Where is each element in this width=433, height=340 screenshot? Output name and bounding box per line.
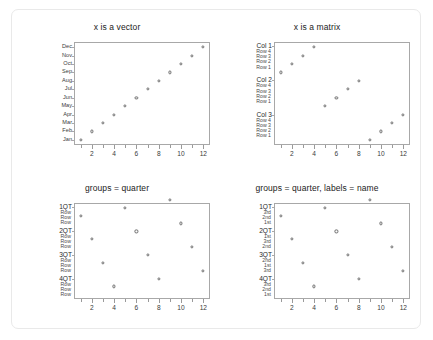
y-tick-mark (72, 140, 75, 141)
y-tick-mark (272, 255, 275, 256)
y-tick-mark (72, 123, 75, 124)
y-group-item: Row 1 (256, 65, 271, 70)
x-tick-mark (159, 299, 160, 303)
x-tick-label: 6 (335, 150, 339, 157)
plot-panel-groups-quarter-labels-name: groups = quarter, labels = name1QT3rd2nd… (218, 177, 416, 325)
y-tick-mark (72, 64, 75, 65)
plot-area-x-is-a-vector (74, 42, 210, 145)
x-tick-minor (103, 299, 104, 302)
y-axis-labels-groups-quarter: 1QTRowRowRow2QTRowRowRow3QTRowRowRow4QTR… (18, 177, 72, 325)
y-tick-mark (72, 131, 75, 132)
data-point (168, 198, 171, 201)
x-tick-label: 2 (290, 304, 294, 311)
y-tick-mark (72, 106, 75, 107)
x-tick-minor (303, 145, 304, 148)
x-tick-label: 6 (335, 304, 339, 311)
y-group-item: Row (61, 221, 71, 226)
x-tick-mark (114, 145, 115, 149)
x-tick-label: 8 (157, 150, 161, 157)
x-tick-minor (325, 299, 326, 302)
panel-grid: x is a vectorDecNovOctSepAugJulJunMayApr… (12, 10, 420, 328)
x-tick-minor (303, 299, 304, 302)
x-tick-minor (192, 299, 193, 302)
y-group-item: Row 1 (256, 99, 271, 104)
x-tick-mark (159, 145, 160, 149)
plot-area-groups-quarter (74, 203, 210, 299)
x-tick-minor (281, 299, 282, 302)
y-axis-labels-x-is-a-matrix: Col 1Row 4Row 3Row 2Row 1Col 2Row 4Row 3… (218, 16, 272, 171)
x-tick-minor (81, 145, 82, 148)
x-tick-mark (336, 145, 337, 149)
x-tick-mark (314, 299, 315, 303)
y-group-item: 3rd (264, 269, 272, 274)
x-tick-label: 4 (312, 150, 316, 157)
x-tick-mark (92, 145, 93, 149)
y-tick-mark (72, 98, 75, 99)
y-tick-mark (272, 231, 275, 232)
y-tick-mark (72, 231, 75, 232)
x-tick-minor (170, 145, 171, 148)
x-tick-label: 6 (135, 304, 139, 311)
plot-area-groups-quarter-labels-name (274, 203, 410, 299)
y-tick-label: Nov (62, 53, 72, 59)
data-point (368, 198, 371, 201)
y-tick-mark (272, 207, 275, 208)
x-tick-mark (136, 145, 137, 149)
y-group-item: Row (61, 269, 71, 274)
x-tick-label: 8 (157, 304, 161, 311)
y-group-item: 1st (264, 293, 271, 298)
x-tick-minor (392, 299, 393, 302)
x-tick-minor (103, 145, 104, 148)
plot-area-x-is-a-matrix (274, 42, 410, 145)
y-tick-label: Sep (62, 70, 72, 76)
y-tick-mark (72, 72, 75, 73)
x-tick-label: 2 (90, 304, 94, 311)
y-group-item: 2nd (262, 245, 271, 250)
x-tick-label: 4 (112, 304, 116, 311)
y-tick-mark (72, 207, 75, 208)
x-tick-mark (292, 145, 293, 149)
x-tick-minor (125, 299, 126, 302)
x-tick-minor (148, 299, 149, 302)
y-tick-label: Aug (62, 78, 72, 84)
x-tick-label: 12 (200, 150, 207, 157)
x-tick-label: 10 (177, 150, 184, 157)
x-tick-minor (370, 145, 371, 148)
x-tick-minor (370, 299, 371, 302)
y-group-item: Row 1 (256, 134, 271, 139)
plot-panel-x-is-a-vector: x is a vectorDecNovOctSepAugJulJunMayApr… (18, 16, 216, 171)
y-tick-mark (272, 115, 275, 116)
y-tick-mark (72, 255, 75, 256)
x-tick-minor (348, 145, 349, 148)
figure-page: x is a vectorDecNovOctSepAugJulJunMayApr… (11, 9, 421, 329)
x-tick-minor (148, 145, 149, 148)
y-tick-label: Dec (62, 44, 72, 50)
y-tick-label: May (61, 103, 72, 109)
x-tick-mark (381, 299, 382, 303)
x-tick-label: 2 (90, 150, 94, 157)
y-axis-labels-x-is-a-vector: DecNovOctSepAugJulJunMayAprMarFebJan (18, 16, 72, 171)
x-tick-minor (81, 299, 82, 302)
plot-panel-x-is-a-matrix: x is a matrixCol 1Row 4Row 3Row 2Row 1Co… (218, 16, 416, 171)
x-tick-label: 10 (177, 304, 184, 311)
x-tick-label: 12 (200, 304, 207, 311)
x-tick-mark (359, 145, 360, 149)
y-tick-mark (72, 56, 75, 57)
x-tick-minor (325, 145, 326, 148)
x-tick-minor (170, 299, 171, 302)
x-tick-mark (359, 299, 360, 303)
x-tick-label: 12 (400, 304, 407, 311)
x-tick-label: 10 (377, 150, 384, 157)
x-tick-minor (392, 145, 393, 148)
x-tick-label: 6 (135, 150, 139, 157)
y-tick-mark (72, 115, 75, 116)
y-group-item: Row (61, 293, 71, 298)
x-tick-minor (281, 145, 282, 148)
y-axis-labels-groups-quarter-labels-name: 1QT3rd2nd1st2QT1st3rd2nd3QT2nd1st3rd4QT3… (218, 177, 272, 325)
y-tick-mark (72, 47, 75, 48)
plot-panel-groups-quarter: groups = quarter1QTRowRowRow2QTRowRowRow… (18, 177, 216, 325)
x-tick-label: 2 (290, 150, 294, 157)
x-tick-mark (314, 145, 315, 149)
x-tick-mark (381, 145, 382, 149)
x-tick-label: 4 (112, 150, 116, 157)
